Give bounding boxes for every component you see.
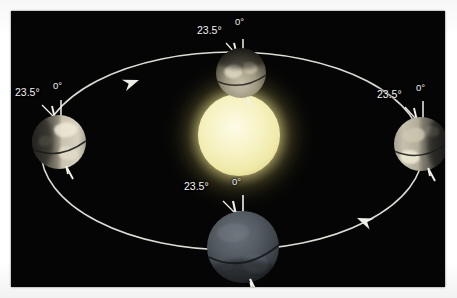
sun-disc (198, 94, 280, 176)
earth-bottom-tilt-label: 23.5° (184, 181, 209, 192)
arrowhead-left (122, 74, 141, 91)
arrowhead-right (355, 212, 374, 229)
orbit-diagram-figure: 23.5° 0° 23.5° 0° 23.5° 0° 23.5° 0° (0, 0, 457, 298)
earth-bottom-reference-label: 0° (232, 177, 241, 187)
earth-top-tilt-label: 23.5° (197, 25, 222, 36)
earth-right-tilt-label: 23.5° (377, 89, 402, 100)
diagram-plate: 23.5° 0° 23.5° 0° 23.5° 0° 23.5° 0° (11, 11, 445, 287)
earth-right (394, 101, 445, 181)
diagram-canvas (11, 11, 445, 287)
earth-left-tilt-label: 23.5° (15, 87, 40, 98)
earth-right-reference-label: 0° (416, 83, 425, 93)
orbit-direction-arrow-upper-left (122, 74, 141, 91)
orbit-direction-arrow-lower-right (355, 212, 374, 229)
earth-left (13, 100, 86, 179)
earth-left-reference-label: 0° (53, 81, 62, 91)
earth-top-reference-label: 0° (235, 17, 244, 27)
earth-left-terminator-shadow (13, 110, 53, 174)
